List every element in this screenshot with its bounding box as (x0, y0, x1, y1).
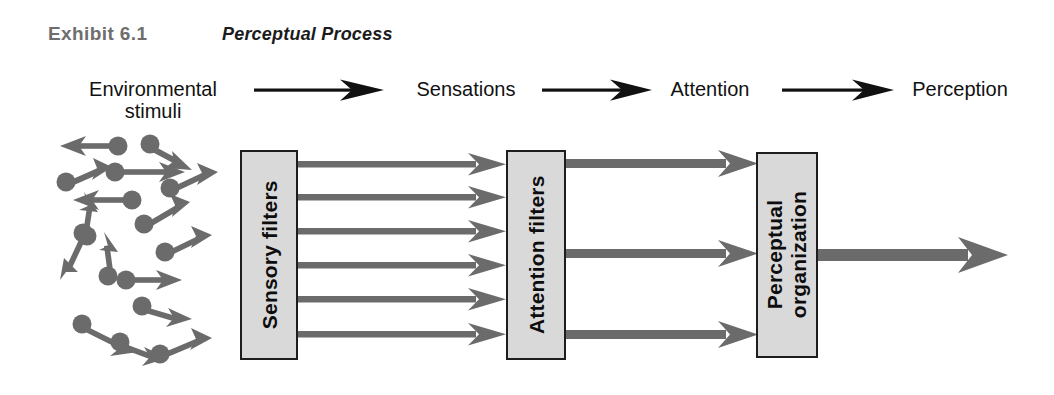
process-box-attention-filters[interactable]: Attention filters (506, 150, 566, 360)
process-box-sensory-filters[interactable]: Sensory filters (240, 150, 298, 360)
stimulus-3 (57, 158, 113, 192)
flow-label-line1: Attention (648, 78, 772, 100)
stimulus-11 (117, 270, 183, 290)
stimulus-12 (133, 297, 193, 328)
flow-label-line1: Sensations (400, 78, 532, 100)
box-text-wrap: Sensory filters (242, 152, 296, 358)
process-box-label-line1: Sensory filters (257, 181, 281, 330)
sensory-out-arrow-1 (298, 153, 506, 176)
process-box-label: Perceptual organization (763, 191, 810, 318)
sensory-out-arrow-3 (298, 220, 506, 243)
stimulus-10 (99, 232, 119, 286)
attention-out-arrow-1 (566, 150, 758, 177)
attention-out-arrow-3 (566, 321, 758, 348)
process-box-label-line1: Attention filters (524, 176, 548, 335)
exhibit-label: Exhibit 6.1 (48, 23, 147, 45)
flow-label-sensations: Sensations (400, 78, 532, 100)
flow-label-line1: Environmental (64, 78, 242, 100)
process-box-perceptual-organization[interactable]: Perceptual organization (756, 152, 818, 358)
exhibit-title: Perceptual Process (222, 24, 393, 45)
stimulus-15 (151, 328, 213, 364)
sensory-out-arrow-6 (298, 323, 506, 346)
flow-label-perception: Perception (888, 78, 1032, 100)
box-text-wrap: Perceptual organization (758, 154, 816, 356)
process-box-label: Sensory filters (257, 181, 281, 330)
process-box-label-line2: organization (787, 191, 811, 318)
process-box-label: Attention filters (524, 176, 548, 335)
stimulus-arrows (57, 135, 219, 367)
sensory-out-arrow-5 (298, 288, 506, 311)
box-text-wrap: Attention filters (508, 152, 564, 358)
flow-label-environmental-stimuli: Environmental stimuli (64, 78, 242, 123)
environmental-stimuli-field (52, 128, 244, 368)
exhibit-diagram: Exhibit 6.1 Perceptual Process Environme… (0, 0, 1054, 395)
stimulus-5 (73, 190, 142, 210)
stimulus-8 (60, 227, 97, 281)
top-arrow-3 (782, 80, 894, 101)
top-arrow-1 (254, 80, 384, 101)
stimulus-2 (141, 135, 193, 171)
stimulus-6 (135, 194, 191, 234)
top-arrow-2 (542, 80, 652, 101)
attention-out-arrow-2 (566, 240, 758, 267)
sensory-out-arrow-2 (298, 186, 506, 209)
flow-label-line1: Perception (888, 78, 1032, 100)
sensory-out-arrow-4 (298, 254, 506, 277)
process-box-label-line1: Perceptual (763, 191, 787, 318)
stimulus-1 (60, 136, 128, 156)
flow-label-attention: Attention (648, 78, 772, 100)
stimulus-9 (156, 226, 213, 262)
flow-label-line2: stimuli (64, 100, 242, 122)
